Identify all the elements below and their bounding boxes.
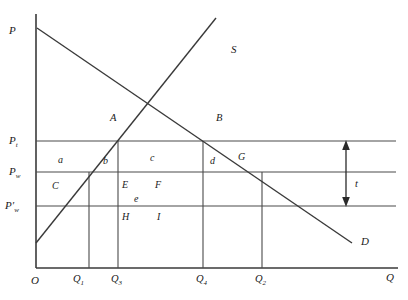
quantity-base-q3: Q xyxy=(111,273,119,284)
demand-curve-label: D xyxy=(361,236,369,247)
price-base-pt: P xyxy=(9,134,16,146)
region-label-c-lower: c xyxy=(150,153,154,163)
diagram-canvas xyxy=(0,0,408,300)
origin-label: O xyxy=(31,275,39,286)
quantity-sub-q3: 3 xyxy=(119,279,123,287)
region-label-h: H xyxy=(122,212,129,222)
quantity-sub-q2: 2 xyxy=(263,279,267,287)
price-base-pw-prime: P xyxy=(5,199,12,211)
point-label-a: A xyxy=(110,113,116,124)
price-label-pt: Pt xyxy=(9,135,18,149)
price-base-pw: P xyxy=(9,165,16,177)
quantity-label-q3: Q3 xyxy=(111,274,122,287)
tariff-diagram-figure: P Q O Pt Pw P′w Q1 Q3 Q4 Q2 S D A B a b … xyxy=(0,0,408,300)
region-label-c-upper: C xyxy=(52,181,59,191)
region-label-e-upper: E xyxy=(122,180,128,190)
supply-curve-label: S xyxy=(231,44,237,55)
quantity-base-q4: Q xyxy=(196,273,204,284)
region-label-i: I xyxy=(157,212,160,222)
x-axis-label: Q xyxy=(386,272,394,283)
quantity-base-q2: Q xyxy=(255,273,263,284)
quantity-label-q2: Q2 xyxy=(255,274,266,287)
supply-curve xyxy=(36,18,216,243)
demand-curve xyxy=(37,28,352,243)
region-label-f: F xyxy=(155,180,161,190)
quantity-sub-q1: 1 xyxy=(81,279,85,287)
region-label-a: a xyxy=(58,155,63,165)
price-sub-pw-prime: w xyxy=(14,206,19,214)
region-label-b: b xyxy=(103,156,108,166)
quantity-label-q1: Q1 xyxy=(73,274,84,287)
price-sub-pw: w xyxy=(16,172,21,180)
tariff-label: t xyxy=(355,179,358,190)
quantity-base-q1: Q xyxy=(73,273,81,284)
y-axis-label: P xyxy=(9,25,16,36)
quantity-sub-q4: 4 xyxy=(204,279,208,287)
point-label-b: B xyxy=(216,113,222,124)
price-label-pw-prime: P′w xyxy=(5,200,19,214)
quantity-label-q4: Q4 xyxy=(196,274,207,287)
region-label-g: G xyxy=(238,152,245,162)
price-label-pw: Pw xyxy=(9,166,20,180)
price-sub-pt: t xyxy=(16,141,18,149)
region-label-d: d xyxy=(210,156,215,166)
tariff-gap-arrow xyxy=(342,140,350,207)
region-label-e-lower: e xyxy=(134,194,138,204)
